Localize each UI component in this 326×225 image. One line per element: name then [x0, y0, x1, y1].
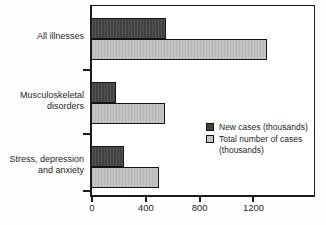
bar-group — [92, 70, 314, 134]
bar-new-cases — [92, 18, 166, 39]
bar-chart-figure: New cases (thousands)Total number of cas… — [0, 0, 326, 225]
bar-group — [92, 134, 314, 198]
bar-total-cases — [92, 39, 267, 60]
category-label-line: Stress, depression — [9, 154, 84, 166]
bar-new-cases — [92, 82, 116, 103]
bar-new-cases — [92, 146, 124, 167]
category-label: All illnesses — [0, 5, 84, 69]
category-label-line: and anxiety — [38, 165, 84, 177]
x-tick-label: 800 — [192, 203, 208, 213]
category-label-line: All illnesses — [37, 31, 84, 43]
category-label-line: disorders — [47, 101, 84, 113]
bar-group — [92, 6, 314, 70]
plot-area: New cases (thousands)Total number of cas… — [90, 5, 315, 197]
category-label: Musculoskeletaldisorders — [0, 69, 84, 133]
y-tick-mark — [83, 190, 91, 192]
x-tick-label: 0 — [89, 203, 94, 213]
x-tick-label: 400 — [138, 203, 154, 213]
category-label: Stress, depressionand anxiety — [0, 133, 84, 197]
bar-total-cases — [92, 167, 159, 188]
category-label-line: Musculoskeletal — [20, 90, 84, 102]
y-tick-mark — [83, 69, 91, 71]
x-tick-label: 1200 — [243, 203, 264, 213]
bar-total-cases — [92, 103, 165, 124]
y-tick-mark — [83, 133, 91, 135]
